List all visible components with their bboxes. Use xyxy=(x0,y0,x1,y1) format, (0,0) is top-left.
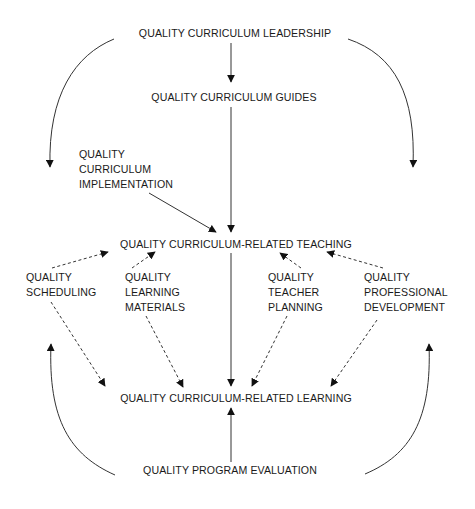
node-curriculum-implementation: QUALITY CURRICULUM IMPLEMENTATION xyxy=(79,147,173,192)
node-label-line: QUALITY xyxy=(268,270,323,285)
edge-development-to-learning xyxy=(331,320,377,386)
node-label-line: TEACHER xyxy=(268,285,323,300)
node-quality-scheduling: QUALITY SCHEDULING xyxy=(26,270,96,300)
node-label-line: SCHEDULING xyxy=(26,285,96,300)
node-program-evaluation: QUALITY PROGRAM EVALUATION xyxy=(130,463,330,478)
edge-materials-to-teaching xyxy=(132,252,155,268)
node-label-line: QUALITY xyxy=(125,270,185,285)
edge-development-to-teaching xyxy=(327,252,383,268)
node-label: QUALITY PROGRAM EVALUATION xyxy=(130,463,330,478)
node-label-line: QUALITY xyxy=(79,147,173,162)
node-label: QUALITY CURRICULUM GUIDES xyxy=(136,90,332,105)
node-label-line: DEVELOPMENT xyxy=(364,300,448,315)
node-label-line: QUALITY xyxy=(26,270,96,285)
node-quality-teacher-planning: QUALITY TEACHER PLANNING xyxy=(268,270,323,315)
node-label: QUALITY CURRICULUM-RELATED TEACHING xyxy=(104,237,368,252)
node-label: QUALITY CURRICULUM-RELATED LEARNING xyxy=(104,391,368,406)
edge-implementation-to-teaching xyxy=(149,193,216,232)
node-curriculum-related-learning: QUALITY CURRICULUM-RELATED LEARNING xyxy=(104,391,368,406)
node-label-line: PLANNING xyxy=(268,300,323,315)
node-quality-professional-development: QUALITY PROFESSIONAL DEVELOPMENT xyxy=(364,270,448,315)
edge-evaluation-arc-left xyxy=(51,344,115,475)
node-label-line: IMPLEMENTATION xyxy=(79,177,173,192)
node-label-line: CURRICULUM xyxy=(79,162,173,177)
node-curriculum-leadership: QUALITY CURRICULUM LEADERSHIP xyxy=(125,26,345,41)
node-label-line: PROFESSIONAL xyxy=(364,285,448,300)
edge-leadership-arc-right xyxy=(348,39,413,167)
node-curriculum-guides: QUALITY CURRICULUM GUIDES xyxy=(136,90,332,105)
edge-planning-to-teaching xyxy=(280,253,301,268)
edge-planning-to-learning xyxy=(252,316,287,386)
node-label: QUALITY CURRICULUM LEADERSHIP xyxy=(125,26,345,41)
edge-scheduling-to-teaching xyxy=(52,252,108,268)
node-label-line: QUALITY xyxy=(364,270,448,285)
diagram-edges xyxy=(0,0,475,509)
edge-scheduling-to-learning xyxy=(51,302,105,386)
edge-materials-to-learning xyxy=(146,316,183,387)
curriculum-quality-diagram: QUALITY CURRICULUM LEADERSHIP QUALITY CU… xyxy=(0,0,475,509)
edge-evaluation-arc-right xyxy=(365,344,429,474)
node-label-line: LEARNING xyxy=(125,285,185,300)
node-curriculum-related-teaching: QUALITY CURRICULUM-RELATED TEACHING xyxy=(104,237,368,252)
node-label-line: MATERIALS xyxy=(125,300,185,315)
node-quality-learning-materials: QUALITY LEARNING MATERIALS xyxy=(125,270,185,315)
